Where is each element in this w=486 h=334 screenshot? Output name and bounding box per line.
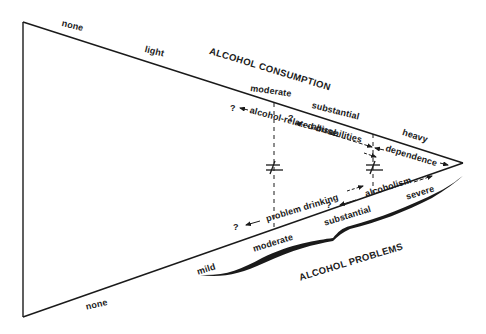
- arrow-problem-right: [347, 186, 363, 191]
- arrow-alcoholism-left: [340, 200, 356, 205]
- arrow-problem-left: [246, 221, 260, 225]
- arrow-dependence-right: [440, 163, 448, 165]
- arrow-disabilities-left: [240, 108, 248, 110]
- diagram-canvas: right --> --> --> -->: [0, 0, 486, 334]
- unknown-alcoholism: ?: [326, 201, 332, 210]
- arrow-disabilities-right: [364, 153, 376, 157]
- unknown-problem-drinking: ?: [233, 223, 239, 232]
- arrow-dependence-left: [375, 148, 384, 150]
- unknown-abuse: ?: [288, 114, 294, 123]
- consumption-axis-line: [23, 22, 463, 163]
- not-equal-marks: [266, 161, 383, 174]
- unknown-disabilities: ?: [230, 104, 236, 113]
